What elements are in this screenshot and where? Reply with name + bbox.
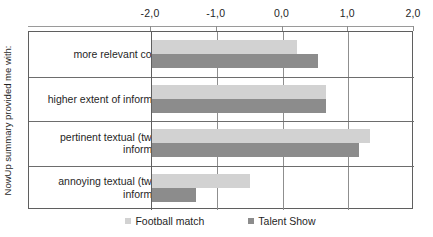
legend-label: Talent Show [258, 215, 315, 227]
x-tick-mark [413, 26, 414, 31]
category-row: more relevant content [29, 32, 414, 77]
plot-area: more relevant contenthigher extent of in… [28, 31, 413, 209]
y-axis-title-label: NowUp summary provided me with: [3, 45, 14, 195]
category-row: higher extent of information [29, 77, 414, 122]
label-column-divider [151, 32, 152, 210]
legend-entry-talent: Talent Show [248, 215, 315, 227]
bar-football-match [151, 174, 250, 188]
x-tick-label: -1,0 [206, 7, 225, 19]
bar-football-match [151, 40, 297, 54]
bar-chart: -2,0 -1,0 0,0 1,0 2,0 NowUp summary prov… [0, 0, 433, 237]
x-axis-line [28, 26, 413, 27]
x-tick-label: 2,0 [405, 7, 420, 19]
x-tick-label: 1,0 [340, 7, 355, 19]
legend-entry-football: Football match [125, 215, 204, 227]
bar-football-match [151, 85, 326, 99]
legend-swatch-icon [248, 218, 254, 224]
bar-talent-show [151, 54, 318, 68]
bar-talent-show [151, 188, 196, 202]
y-axis-title: NowUp summary provided me with: [0, 31, 16, 209]
chart-legend: Football match Talent Show [28, 212, 413, 230]
bar-football-match [151, 129, 370, 143]
category-row: pertinent textual (tweets)information [29, 121, 414, 166]
bar-talent-show [151, 143, 359, 157]
x-axis-tick-labels: -2,0 -1,0 0,0 1,0 2,0 [0, 7, 433, 23]
bar-talent-show [151, 99, 326, 113]
legend-swatch-icon [125, 218, 131, 224]
x-tick-label: 0,0 [274, 7, 289, 19]
legend-label: Football match [135, 215, 204, 227]
category-row: annoying textual (tweets)information [29, 166, 414, 211]
x-tick-label: -2,0 [141, 7, 160, 19]
